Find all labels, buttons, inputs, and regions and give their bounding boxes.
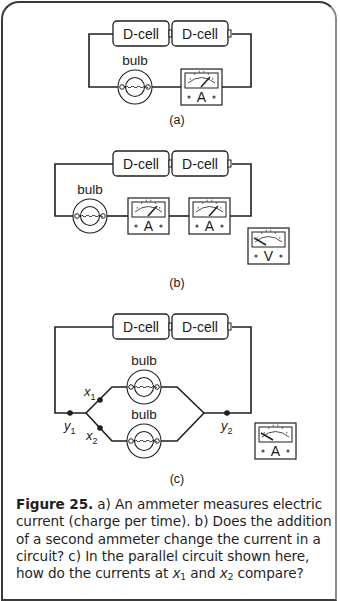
bulb-label: bulb [131,407,157,422]
caption-end: compare? [233,565,303,581]
meter-terminal [212,95,215,98]
meter-symbol: A [271,443,281,459]
bulb-label: bulb [131,353,157,368]
meter-terminal [159,224,162,227]
label-y2: y2 [220,418,233,436]
bulb: bulb [127,353,161,404]
caption-mid: and [186,565,220,581]
d-cell-terminal [228,160,231,167]
ammeter: A [255,423,296,459]
wire [159,413,204,441]
d-cell-terminal [228,30,231,37]
d-cell: D-cell [113,314,172,339]
d-cell-label: D-cell [123,26,159,42]
d-cell: D-cell [172,21,231,46]
wire [55,327,113,413]
figure-caption: Figure 25. a) An ammeter measures electr… [16,496,332,582]
d-cell: D-cell [172,151,231,176]
var-x2: x [220,565,228,581]
bulb-terminal [129,439,134,444]
meter-terminal [220,224,223,227]
meter-terminal [134,224,137,227]
circuit-diagram: D-cellD-cellbulbA(a)D-cellD-cellbulbAAV(… [0,0,340,490]
junction-dot [224,410,230,416]
ammeter: A [181,69,222,105]
bulb-terminal [120,85,125,90]
meter-terminal [254,254,257,257]
figure-number: Figure 25. [16,496,93,512]
panel-label: (a) [169,113,184,127]
panel-label: (b) [169,276,184,290]
panel-a: D-cellD-cellbulbA(a) [89,21,251,127]
panel-label: (c) [170,472,185,486]
meter-terminal [286,449,289,452]
d-cell-label: D-cell [123,319,159,335]
junction-dot [97,425,103,431]
wire [204,327,251,413]
wire [230,164,251,216]
junction-dot [67,410,73,416]
d-cell-terminal [228,323,231,330]
d-cell: D-cell [113,21,172,46]
label-x2: x2 [85,428,98,446]
meter-symbol: A [205,218,215,234]
label-x1: x1 [83,384,96,402]
d-cell: D-cell [113,151,172,176]
d-cell-label: D-cell [182,319,218,335]
junction-dot [97,397,103,403]
meter-terminal [187,95,190,98]
d-cell: D-cell [172,314,231,339]
panel-b: D-cellD-cellbulbAAV(b) [55,151,289,290]
label-y1: y1 [63,418,76,436]
bulb: bulb [127,407,161,458]
voltmeter: V [248,228,289,264]
bulb: bulb [118,53,152,104]
meter-symbol: A [197,89,207,105]
meter-symbol: A [144,218,154,234]
bulb-label: bulb [77,182,103,197]
bulb-label: bulb [122,53,148,68]
d-cell-label: D-cell [182,26,218,42]
bulb-terminal [129,385,134,390]
meter-symbol: V [264,248,274,264]
wire [159,387,204,413]
d-cell-label: D-cell [123,156,159,172]
bulb-terminal [75,214,80,219]
ammeter-1: A [128,198,169,234]
d-cell-label: D-cell [182,156,218,172]
meter-terminal [279,254,282,257]
panel-c: D-cellD-cellbulbbulbx1x2y1y2A(c) [55,314,296,486]
meter-terminal [195,224,198,227]
bulb: bulb [73,182,107,233]
ammeter-2: A [189,198,230,234]
meter-terminal [261,449,264,452]
